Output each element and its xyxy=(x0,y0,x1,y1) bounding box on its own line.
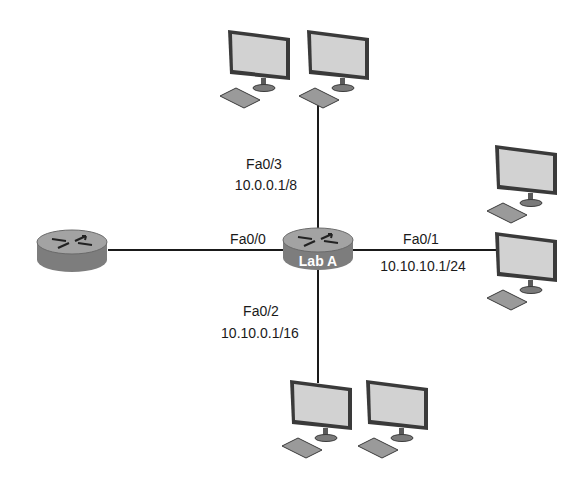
router-label: Lab A xyxy=(299,253,337,269)
fa01-name: Fa0/1 xyxy=(403,231,439,247)
host-bottom-2[interactable] xyxy=(358,380,428,458)
host-right-1[interactable] xyxy=(487,145,557,223)
fa02-name: Fa0/2 xyxy=(243,303,279,319)
remote-router-icon[interactable] xyxy=(37,230,107,272)
fa03-name: Fa0/3 xyxy=(246,156,282,172)
host-right-2[interactable] xyxy=(487,232,557,310)
fa02-ip: 10.10.0.1/16 xyxy=(221,325,299,341)
host-top-2[interactable] xyxy=(299,30,369,108)
host-bottom-1[interactable] xyxy=(282,380,352,458)
fa00-name: Fa0/0 xyxy=(230,231,266,247)
host-top-1[interactable] xyxy=(220,30,290,108)
lab-a-router[interactable]: Lab A xyxy=(283,228,353,270)
network-diagram: Lab A Fa0/3 10.0.0.1/8 Fa0/0 Fa0/1 10.10… xyxy=(0,0,586,500)
fa01-ip: 10.10.10.1/24 xyxy=(380,258,466,274)
fa03-ip: 10.0.0.1/8 xyxy=(235,177,297,193)
